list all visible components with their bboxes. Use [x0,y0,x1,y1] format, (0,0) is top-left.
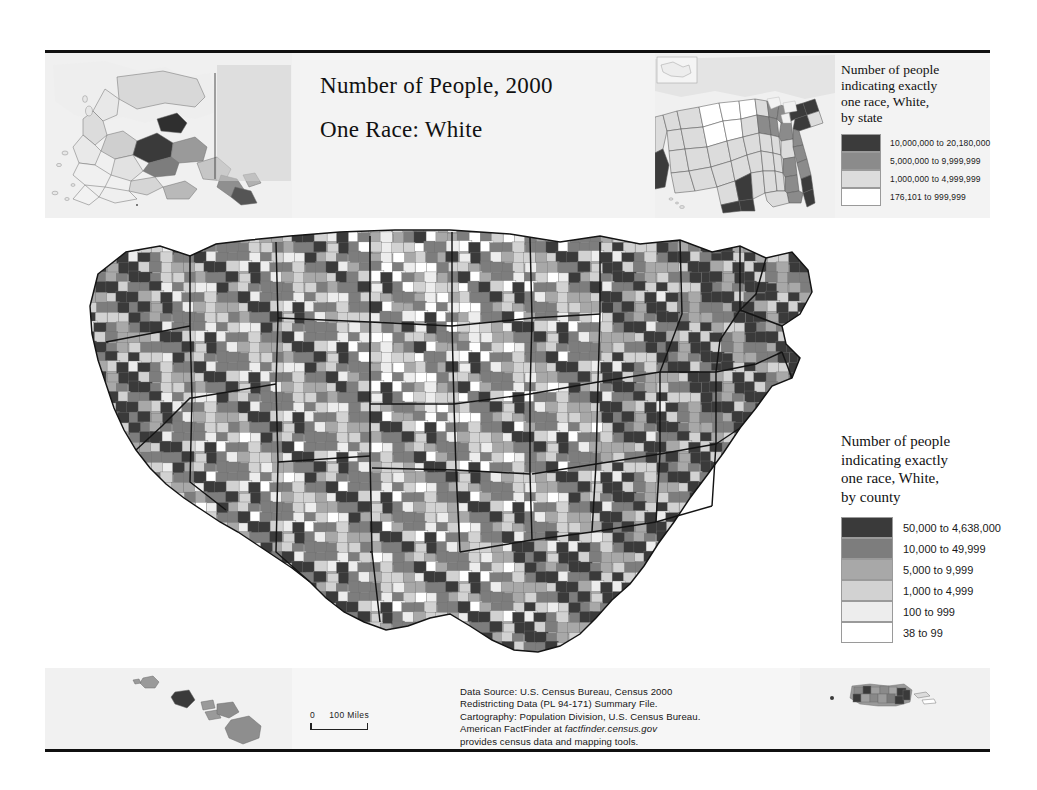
county-legend-row: 50,000 to 4,638,000 [841,517,1031,538]
scale-bar-graphic [310,723,368,730]
county-legend-row: 5,000 to 9,999 [841,559,1031,580]
state-legend-row: 5,000,000 to 9,999,999 [841,152,991,170]
county-legend-row: 100 to 999 [841,601,1031,622]
state-legend-heading-line-3: one race, White, [841,94,991,110]
scale-distance-label: 100 Miles [329,710,369,720]
county-legend-swatch [841,517,893,538]
state-legend-heading-line-4: by state [841,110,991,126]
source-line-3: Cartography: Population Division, U.S. C… [460,711,700,723]
county-legend-label: 38 to 99 [903,627,943,639]
county-legend: Number of people indicating exactly one … [841,432,1031,643]
alaska-inset-panel: 0 100 Miles [45,53,292,218]
state-legend-swatch [841,134,881,152]
county-legend-row: 10,000 to 49,999 [841,538,1031,559]
source-line-4-text: American FactFinder at [460,723,565,734]
county-legend-swatch [841,622,893,643]
state-legend-label: 176,101 to 999,999 [890,192,966,202]
state-legend-row: 1,000,000 to 4,999,999 [841,170,991,188]
county-legend-swatch [841,559,893,580]
hawaii-inset-map [45,668,292,749]
title-line-1: Number of People, 2000 [320,73,553,99]
county-legend-heading-line-2: indicating exactly [841,451,1031,470]
state-legend-label: 1,000,000 to 4,999,999 [890,174,981,184]
county-legend-heading-line-3: one race, White, [841,469,1031,488]
alaska-inset-map [45,53,292,218]
state-legend-swatch [841,152,881,170]
puerto-rico-inset-panel: 0 100 Miles [800,668,990,749]
state-legend-heading-line-2: indicating exactly [841,78,991,94]
county-legend-row: 38 to 99 [841,622,1031,643]
hawaii-inset-panel: 0 100 Miles [45,668,292,749]
county-legend-heading-line-4: by county [841,488,1031,507]
state-legend-heading-line-1: Number of people [841,62,991,78]
county-legend-row: 1,000 to 4,999 [841,580,1031,601]
state-legend-row: 10,000,000 to 20,180,000 [841,134,991,152]
state-legend-swatch [841,170,881,188]
title-line-2: One Race: White [320,117,553,143]
county-legend-heading: Number of people indicating exactly one … [841,432,1031,506]
source-note: Data Source: U.S. Census Bureau, Census … [460,686,700,748]
county-legend-swatch [841,538,893,559]
state-legend-rows: 10,000,000 to 20,180,000 5,000,000 to 9,… [841,134,991,206]
county-legend-label: 10,000 to 49,999 [903,543,986,555]
source-line-4: American FactFinder at factfinder.census… [460,723,700,735]
source-line-2: Redistricting Data (PL 94-171) Summary F… [460,698,700,710]
county-legend-rows: 50,000 to 4,638,000 10,000 to 49,999 5,0… [841,517,1031,643]
state-legend-label: 10,000,000 to 20,180,000 [890,138,991,148]
bottom-divider-rule [45,749,990,752]
main-county-map [40,222,870,722]
source-scale-bar: 0 100 Miles [310,710,369,730]
county-legend-label: 50,000 to 4,638,000 [903,522,1001,534]
state-inset-panel [655,53,835,218]
puerto-rico-inset-map [800,668,990,749]
county-legend-heading-line-1: Number of people [841,432,1031,451]
state-legend: Number of people indicating exactly one … [841,62,991,206]
map-poster: 0 100 Miles Number of People, 2000 One R… [0,0,1037,790]
source-line-5: provides census data and mapping tools. [460,736,700,748]
county-legend-label: 5,000 to 9,999 [903,564,973,576]
state-legend-heading: Number of people indicating exactly one … [841,62,991,126]
scale-zero-label: 0 [310,710,315,720]
source-line-1: Data Source: U.S. Census Bureau, Census … [460,686,700,698]
county-legend-label: 100 to 999 [903,606,955,618]
state-legend-label: 5,000,000 to 9,999,999 [890,156,981,166]
factfinder-url: factfinder.census.gov [565,723,657,734]
state-inset-map [655,53,835,218]
state-legend-swatch [841,188,881,206]
county-legend-swatch [841,601,893,622]
county-legend-label: 1,000 to 4,999 [903,585,973,597]
county-legend-swatch [841,580,893,601]
state-legend-row: 176,101 to 999,999 [841,188,991,206]
poster-title: Number of People, 2000 One Race: White [320,73,553,161]
